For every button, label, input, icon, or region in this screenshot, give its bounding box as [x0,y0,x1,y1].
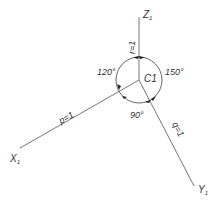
axonometric-diagram: Z1 X1 Y1 C1 120° 150° 90° r=1 p=1 q=1 [0,0,217,206]
angle-zy-label: 150° [165,67,184,77]
x-axis-label: X1 [9,153,20,165]
y-axis-label: Y1 [198,184,208,196]
z-axis-label: Z1 [142,9,152,21]
y-ratio-label: q=1 [170,120,186,138]
x-axis-line [20,80,139,148]
z-ratio-label: r=1 [127,41,137,54]
angle-zx-label: 120° [97,67,116,77]
center-label: C1 [144,73,157,84]
x-ratio-label: p=1 [56,110,75,127]
angle-xy-label: 90° [130,110,144,120]
